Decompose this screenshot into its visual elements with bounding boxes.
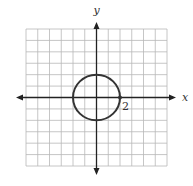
point-label: 2 (122, 100, 129, 113)
y-axis-arrow-up (94, 22, 100, 29)
y-axis-arrow-down (94, 168, 100, 175)
axes (16, 22, 176, 175)
x-axis-arrow-left (16, 95, 23, 101)
y-axis-label: y (93, 4, 101, 17)
coordinate-plane: 2 x y (0, 0, 193, 186)
x-axis-arrow-right (169, 95, 176, 101)
x-axis-label: x (182, 91, 189, 104)
